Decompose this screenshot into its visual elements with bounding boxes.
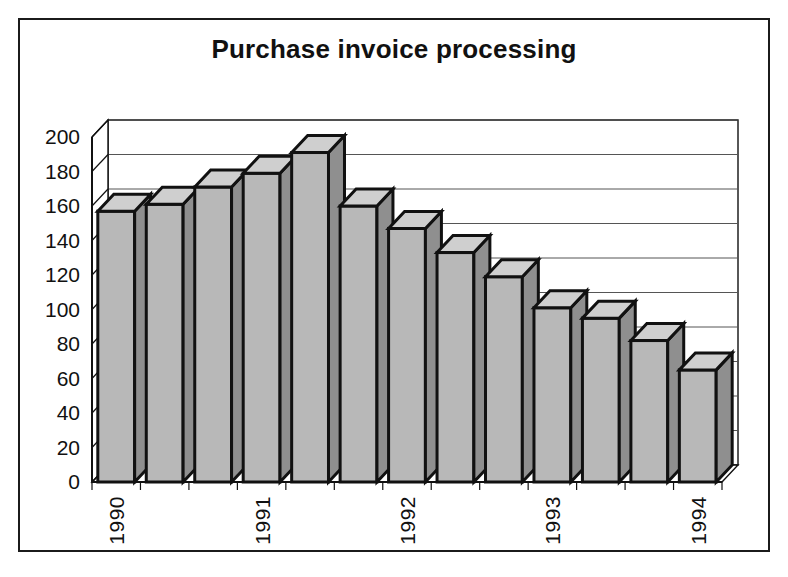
bar-chart-canvas [20,20,772,554]
bar-3 [243,156,296,482]
bar-0 [98,194,151,482]
bar-7 [437,236,490,482]
bar-5 [340,189,393,482]
bar-9 [534,291,587,482]
bar-8 [486,260,539,482]
y-tick-label-40: 40 [20,402,80,423]
y-tick-label-120: 120 [20,264,80,285]
bar-12 [679,353,732,482]
y-tick-label-160: 160 [20,195,80,216]
x-tick-label-1990: 1990 [105,496,129,545]
bar-4 [292,136,345,482]
bar-10 [582,301,635,482]
bar-6 [389,211,442,482]
bar-11 [631,324,684,482]
y-tick-label-140: 140 [20,230,80,251]
bar-1 [146,187,199,482]
y-tick-label-100: 100 [20,299,80,320]
x-tick-label-1992: 1992 [396,496,420,545]
chart-frame: Purchase invoice processing 020406080100… [18,18,770,552]
y-tick-label-80: 80 [20,333,80,354]
bar-2 [195,170,248,482]
x-tick-label-1991: 1991 [251,496,275,545]
x-tick-label-1993: 1993 [541,496,565,545]
y-tick-label-0: 0 [20,471,80,492]
x-tick-label-1994: 1994 [687,496,711,545]
y-tick-label-180: 180 [20,161,80,182]
y-tick-label-60: 60 [20,368,80,389]
y-tick-label-20: 20 [20,437,80,458]
y-tick-label-200: 200 [20,126,80,147]
